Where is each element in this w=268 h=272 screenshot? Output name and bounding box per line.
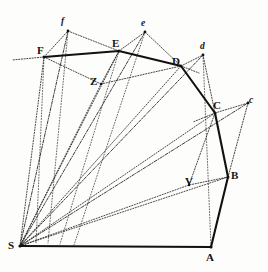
label-F: F [37,45,44,56]
orbit-edge-E-F [44,51,119,57]
dropper-d [203,55,211,247]
point-C [214,112,217,115]
radius-S-V [20,185,189,246]
vertex-markers [18,30,249,249]
label-V: V [185,176,193,187]
label-B: B [231,170,238,181]
point-Z [100,83,102,85]
point-e [144,31,147,34]
point-A [209,245,212,248]
radii-from-S-to-lowercase [20,31,248,246]
label-E: E [112,38,119,49]
label-f: f [61,17,64,27]
point-S [18,244,21,247]
line-E-e [119,32,145,51]
radii-from-S [20,51,228,246]
line-D-Z [101,66,181,84]
point-d [202,54,205,57]
orbit-polygon [20,51,228,247]
label-S: S [8,240,14,251]
label-C: C [213,100,221,111]
label-Z: Z [90,76,97,87]
label-d: d [200,42,205,52]
figure-canvas [0,0,268,272]
radius-S-F [20,57,44,246]
auxiliary-droppers [36,31,211,247]
point-B [227,176,230,179]
label-e: e [141,19,145,29]
label-A: A [206,252,214,263]
orbit-edge-S-A [20,246,211,247]
point-E [118,50,121,53]
dropper-e [74,32,145,245]
geometry-figure: S A B C D E F V Z c d e f [0,0,268,272]
label-c: c [249,96,253,106]
radius-S-c [20,103,248,246]
orbit-edge-A-B [211,177,228,247]
point-f [67,30,70,33]
line-F-extension [12,57,44,60]
radius-S-Z [20,84,101,246]
radius-S-e [20,32,145,246]
label-D: D [172,56,180,67]
line-D-d [181,55,203,66]
orbit-edge-B-C [215,113,228,177]
line-F-f [44,31,68,57]
radius-S-d [20,55,203,246]
